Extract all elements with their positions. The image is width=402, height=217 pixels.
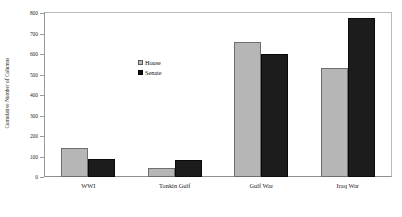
bar-house-gulf-war <box>234 42 261 177</box>
bar-group <box>218 13 305 177</box>
y-tick-label: 800 <box>30 9 38 17</box>
bar-senate-iraq-war <box>348 18 375 177</box>
y-tick-label: 100 <box>30 153 38 161</box>
x-axis-label-wwi: WWI <box>45 182 132 189</box>
y-tick-label: 0 <box>35 173 38 181</box>
y-tick-mark <box>40 177 44 178</box>
bar-house-iraq-war <box>321 68 348 177</box>
y-tick-label: 500 <box>30 71 38 79</box>
x-axis-label-gulf-war: Gulf War <box>218 182 305 189</box>
x-axis-labels: WWITonkin GulfGulf WarIraq War <box>44 182 392 198</box>
y-tick-label: 200 <box>30 132 38 140</box>
y-tick-label: 600 <box>30 50 38 58</box>
x-axis-label-tonkin-gulf: Tonkin Gulf <box>132 182 219 189</box>
y-tick-label: 400 <box>30 91 38 99</box>
bar-group <box>132 13 219 177</box>
bar-senate-tonkin-gulf <box>175 160 202 177</box>
bar-house-wwi <box>61 148 88 177</box>
bar-group <box>45 13 132 177</box>
legend-swatch-icon-house <box>138 60 143 65</box>
y-tick-label: 700 <box>30 30 38 38</box>
bars-layer <box>45 13 391 177</box>
legend: HouseSenate <box>138 58 194 78</box>
bar-senate-wwi <box>88 159 115 177</box>
legend-label: Senate <box>145 69 162 76</box>
legend-swatch-icon-senate <box>138 70 143 75</box>
y-tick-label: 300 <box>30 112 38 120</box>
bar-house-tonkin-gulf <box>148 168 175 177</box>
bar-senate-gulf-war <box>261 54 288 177</box>
legend-label: House <box>145 59 161 66</box>
y-axis-ticks: 0100200300400500600700800 <box>0 0 44 189</box>
bar-chart: Cumulative Number of Columns 01002003004… <box>0 0 402 217</box>
legend-item-senate[interactable]: Senate <box>138 68 194 77</box>
x-axis-label-iraq-war: Iraq War <box>305 182 392 189</box>
bar-group <box>305 13 392 177</box>
legend-item-house[interactable]: House <box>138 58 194 67</box>
